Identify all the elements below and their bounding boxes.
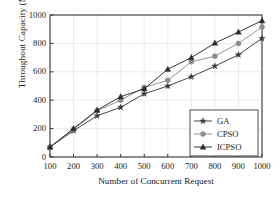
- y-tick-label: 0: [12, 152, 46, 162]
- chart-figure: Throughout Capacity (Mbps) Number of Con…: [0, 0, 280, 197]
- y-tick-label: 600: [12, 66, 46, 76]
- y-tick-label: 800: [12, 38, 46, 48]
- legend[interactable]: GACPSOICPSO: [190, 110, 258, 156]
- x-tick-label: 1000: [245, 161, 279, 171]
- y-tick-label: 200: [12, 123, 46, 133]
- legend-label: GA: [217, 116, 230, 126]
- legend-label: ICPSO: [217, 142, 241, 152]
- legend-label: CPSO: [217, 129, 239, 139]
- y-tick-label: 400: [12, 95, 46, 105]
- y-tick-label: 1000: [12, 10, 46, 20]
